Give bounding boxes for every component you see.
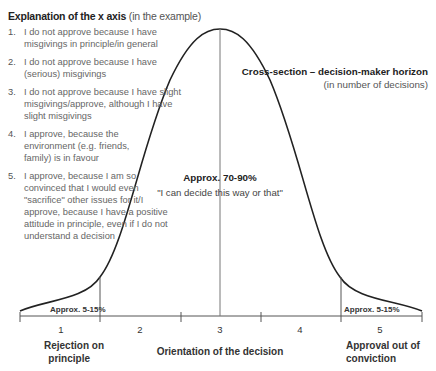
legend-item-number: 1. (8, 26, 16, 38)
tick-label-3: 3 (210, 324, 230, 335)
axis-left-label-line2: principle (44, 352, 90, 365)
tick-label-5: 5 (370, 324, 390, 335)
axis-left-label: Rejection on principle (44, 339, 90, 365)
tick-label-1: 1 (51, 324, 71, 335)
legend-item: 4.I approve, because the environment (e.… (8, 128, 149, 164)
legend-item-number: 5. (8, 170, 16, 182)
legend-item-number: 3. (8, 86, 16, 98)
axis-left-label-line1: Rejection on (44, 339, 90, 352)
tick-label-4: 4 (290, 324, 310, 335)
legend-item-text: I approve, because the environment (e.g.… (24, 129, 129, 163)
legend-item-text: I do not approve because I have misgivin… (24, 27, 158, 49)
axis-right-label-line1: Approval out of (346, 339, 436, 352)
curve-label-title: Cross-section – decision-maker horizon (242, 65, 428, 78)
legend-item-text: I do not approve because I have (serious… (24, 57, 157, 79)
legend-title: Explanation of the x axis (in the exampl… (8, 10, 201, 22)
legend-item: 1.I do not approve because I have misgiv… (8, 26, 183, 50)
legend-item: 2.I do not approve because I have (serio… (8, 56, 183, 80)
center-quote: "I can decide this way or that" (120, 187, 320, 198)
axis-right-label-line2: conviction (346, 352, 436, 365)
right-tail-label: Approx. 5-15% (344, 305, 400, 314)
tick-label-2: 2 (130, 324, 150, 335)
legend-item: 3.I do not approve because I have slight… (8, 86, 183, 122)
legend-list: 1.I do not approve because I have misgiv… (8, 26, 183, 248)
curve-label-subtitle: (in number of decisions) (242, 78, 428, 91)
legend-title-bold: Explanation of the x axis (8, 10, 126, 22)
legend-item-number: 4. (8, 128, 16, 140)
axis-center-label: Orientation of the decision (150, 345, 290, 358)
axis-right-label: Approval out of conviction (346, 339, 436, 365)
center-percent: Approx. 70-90% (120, 172, 320, 183)
legend-title-suffix: (in the example) (126, 10, 201, 22)
legend-item-text: I do not approve because I have slight m… (24, 87, 181, 121)
left-tail-label: Approx. 5-15% (50, 305, 106, 314)
legend-item-number: 2. (8, 56, 16, 68)
curve-label: Cross-section – decision-maker horizon (… (242, 65, 428, 91)
